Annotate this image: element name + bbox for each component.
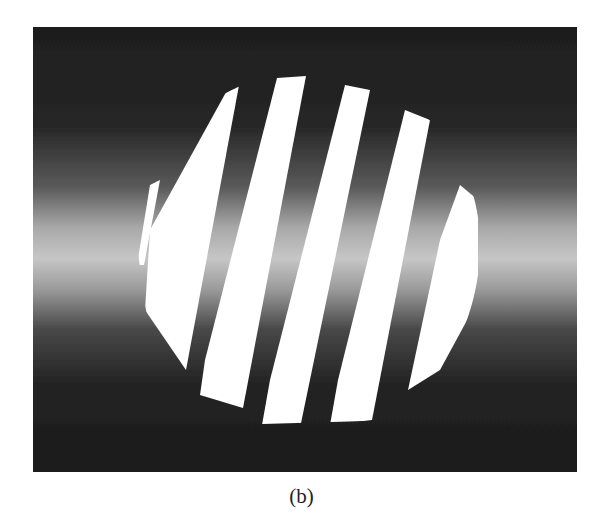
figure-caption: (b) xyxy=(0,484,603,509)
photo-frame xyxy=(33,27,577,472)
figure: (b) xyxy=(0,0,603,532)
fringe-photograph xyxy=(0,0,603,532)
